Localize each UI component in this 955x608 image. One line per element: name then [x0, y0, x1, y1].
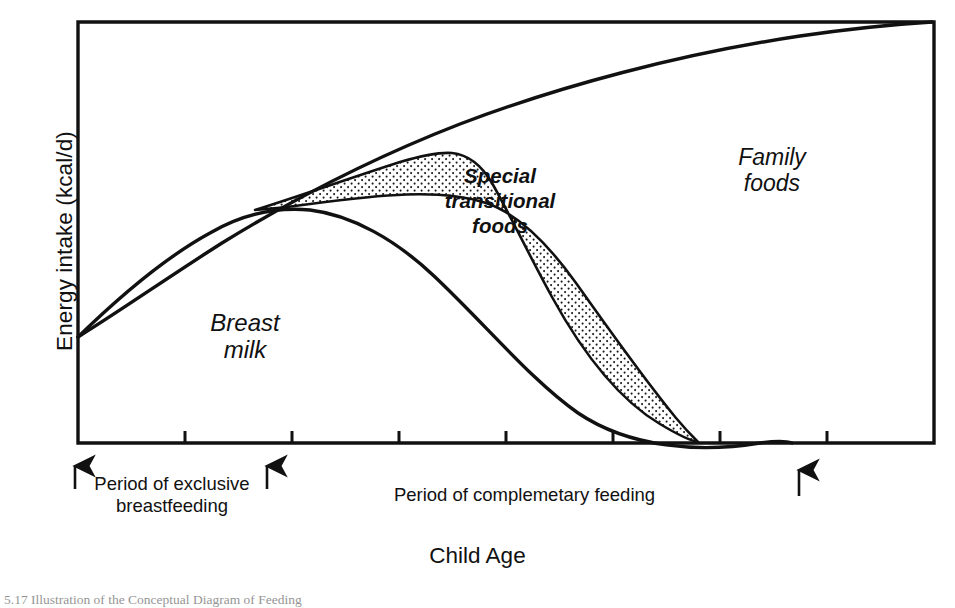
figure-container: Energy intake (kcal/d) Breast milk Speci… [0, 0, 955, 608]
note-period-exclusive-breastfeeding: Period of exclusive breastfeeding [82, 473, 262, 516]
figure-caption: 5.17 Illustration of the Conceptual Diag… [0, 592, 955, 608]
chart-canvas [0, 0, 955, 608]
y-axis-title: Energy intake (kcal/d) [52, 46, 78, 436]
annotation-special-transitional-foods: Special transitional foods [385, 163, 615, 238]
annotation-breast-milk: Breast milk [150, 309, 340, 364]
x-axis-title: Child Age [0, 543, 955, 569]
annotation-family-foods: Family foods [672, 144, 872, 196]
x-axis-ticks [185, 431, 827, 443]
note-period-complementary-feeding: Period of complemetary feeding [352, 484, 697, 506]
